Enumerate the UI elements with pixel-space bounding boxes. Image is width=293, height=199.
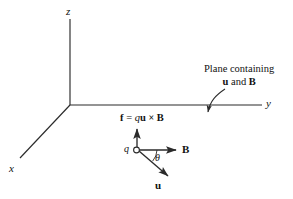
plane-pointer-arrow <box>208 89 225 112</box>
figure-canvas <box>0 0 293 199</box>
velocity-vector-label: u <box>155 180 161 191</box>
formula-b: B <box>157 112 164 123</box>
plane-annotation-line1: Plane containing <box>204 63 274 76</box>
y-axis-label: y <box>266 98 271 109</box>
z-axis-label: z <box>66 6 70 17</box>
force-formula: f = qu × B <box>120 113 164 124</box>
plane-annotation: Plane containing u and B <box>204 63 274 89</box>
x-axis-line <box>20 105 70 158</box>
plane-annotation-b: B <box>249 76 256 87</box>
velocity-vector-arrow <box>139 151 168 176</box>
magnetic-field-vector-label: B <box>182 144 189 155</box>
x-axis-label: x <box>9 163 14 174</box>
magnetic-force-figure: z y x q θ B u f = qu × B Plane containin… <box>0 0 293 199</box>
charge-point <box>134 147 140 153</box>
plane-annotation-and: and <box>228 76 248 87</box>
plane-annotation-line2: u and B <box>204 76 274 89</box>
theta-angle-label: θ <box>155 153 160 163</box>
charge-label: q <box>124 144 129 154</box>
